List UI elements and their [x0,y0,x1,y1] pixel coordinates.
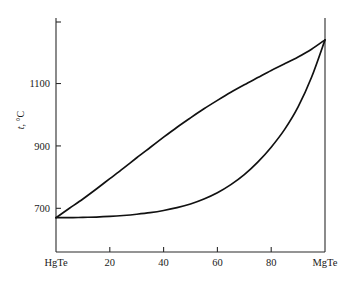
y-tick-label: 1100 [29,78,50,89]
y-tick-label: 900 [34,141,50,152]
x-tick-label: 40 [158,257,169,268]
x-tick-label: MgTe [313,257,338,268]
y-axis-title-unit: , °C [15,110,26,126]
x-tick-label: 60 [212,257,223,268]
y-axis-title: t, °C [15,110,26,129]
x-tick-label: HgTe [44,257,68,268]
svg-text:t, °C: t, °C [15,110,26,129]
x-tick-label: 20 [105,257,116,268]
x-tick-label: 80 [266,257,277,268]
chart-background [0,0,348,284]
chart-canvas: 7009001100 HgTe20406080MgTe t, °C [0,0,348,284]
y-tick-label: 700 [34,203,50,214]
phase-diagram-figure: 7009001100 HgTe20406080MgTe t, °C [0,0,348,284]
